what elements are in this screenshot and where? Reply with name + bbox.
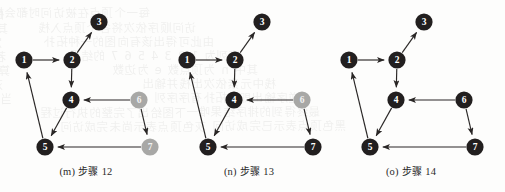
figure-panel-o: 1234567 (o) 步骤 14 (327, 0, 495, 192)
graph-edge-4-to-5 (376, 108, 391, 136)
node-circle (466, 138, 483, 155)
graph-edge-5-to-1 (352, 72, 368, 138)
caption-label-o: 步骤 (402, 166, 423, 177)
graph-edge-6-to-7 (466, 109, 472, 135)
graph-node-1: 1 (340, 51, 357, 68)
node-circle (225, 91, 242, 108)
graph-node-1: 1 (15, 51, 32, 68)
node-circle (141, 138, 158, 155)
graph-diagram-o: 1234567 (327, 0, 495, 165)
graph-diagram-m: 1234567 (2, 0, 170, 165)
graph-node-3: 3 (415, 13, 432, 30)
node-circle (63, 51, 80, 68)
graph-edge-5-to-1 (27, 72, 43, 138)
graph-node-3: 3 (90, 13, 107, 30)
graph-edge-6-to-7 (304, 109, 310, 135)
node-circle (90, 13, 107, 30)
caption-step-m: 12 (102, 166, 113, 177)
graph-node-5: 5 (199, 138, 216, 155)
node-circle (361, 138, 378, 155)
graph-edge-5-to-1 (190, 72, 206, 138)
caption-step-o: 14 (425, 166, 436, 177)
node-circle (415, 13, 432, 30)
graph-node-6: 6 (130, 91, 147, 108)
graph-node-7: 7 (304, 138, 321, 155)
graph-node-1: 1 (178, 51, 195, 68)
node-circle (388, 51, 405, 68)
node-circle (253, 13, 270, 30)
graph-node-6: 6 (455, 91, 472, 108)
graph-node-2: 2 (63, 51, 80, 68)
node-circle (387, 91, 404, 108)
caption-label-m: 步骤 (78, 166, 99, 177)
graph-node-2: 2 (388, 51, 405, 68)
caption-label-n: 步骤 (240, 166, 261, 177)
node-circle (62, 91, 79, 108)
graph-node-4: 4 (387, 91, 404, 108)
node-circle (226, 51, 243, 68)
graph-edge-2-to-3 (77, 32, 91, 52)
node-circle (36, 138, 53, 155)
panel-caption-o: (o) 步骤 14 (327, 163, 495, 178)
caption-index-n: (n) (224, 166, 237, 177)
caption-step-n: 13 (263, 166, 274, 177)
figure-panel-m: 1234567 (m) 步骤 12 (2, 0, 170, 192)
graph-node-3: 3 (253, 13, 270, 30)
node-circle (340, 51, 357, 68)
graph-node-4: 4 (62, 91, 79, 108)
graph-edge-4-to-5 (214, 108, 229, 136)
graph-node-7: 7 (141, 138, 158, 155)
panel-caption-m: (m) 步骤 12 (2, 163, 170, 178)
graph-edge-4-to-5 (51, 108, 66, 136)
node-circle (455, 91, 472, 108)
caption-index-o: (o) (386, 166, 399, 177)
graph-node-2: 2 (226, 51, 243, 68)
graph-node-5: 5 (361, 138, 378, 155)
node-circle (199, 138, 216, 155)
graph-node-6: 6 (293, 91, 310, 108)
graph-edge-2-to-3 (240, 32, 254, 52)
figure-panel-n: 1234567 (n) 步骤 13 (165, 0, 333, 192)
node-circle (15, 51, 32, 68)
graph-diagram-n: 1234567 (165, 0, 333, 165)
node-circle (293, 91, 310, 108)
node-circle (130, 91, 147, 108)
graph-node-5: 5 (36, 138, 53, 155)
node-circle (304, 138, 321, 155)
node-circle (178, 51, 195, 68)
panel-caption-n: (n) 步骤 13 (165, 163, 333, 178)
graph-node-4: 4 (225, 91, 242, 108)
caption-index-m: (m) (59, 166, 75, 177)
graph-edge-2-to-3 (402, 32, 416, 52)
graph-edge-6-to-7 (141, 109, 147, 135)
graph-node-7: 7 (466, 138, 483, 155)
